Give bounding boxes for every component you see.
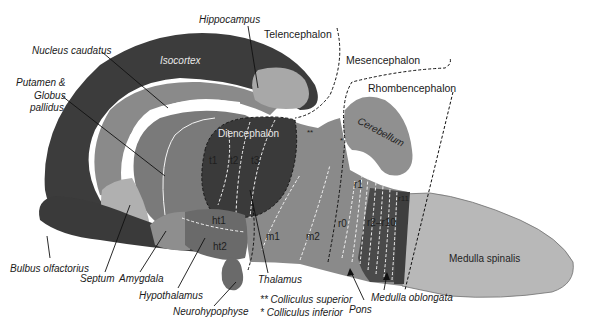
putamen-callout-line3: pallidus [29,102,64,113]
colliculus-superior-mark: ** [307,128,313,137]
putamen-callout-line2: Globus [34,90,66,101]
colliculus-inferior-mark: * [340,136,343,145]
mesencephalon-label: Mesencephalon [346,54,420,66]
ht1-label: ht1 [212,215,226,226]
septum-callout: Septum [80,273,114,284]
m2-label: m2 [306,231,320,242]
r0-label: r0 [338,218,347,229]
medulla-spinalis-region [402,193,573,297]
putamen-callout-line1: Putamen & [16,77,66,88]
r1-label: r1 [354,179,363,190]
ht2-label: ht2 [213,241,227,252]
amygdala-callout: Amygdala [118,273,164,284]
hippocampus-callout: Hippocampus [199,14,260,25]
r2-r10-label: r2–r10 [367,217,396,228]
neurohypophyse-callout: Neurohypophyse [173,306,249,317]
nucleus-caudatus-callout: Nucleus caudatus [32,45,112,56]
bulbus-olfactorius-callout: Bulbus olfactorius [10,263,89,274]
t2-label: t2 [230,155,239,166]
thalamus-callout: Thalamus [258,274,302,285]
medulla-spinalis-label: Medulla spinalis [449,253,520,264]
telencephalon-label: Telencephalon [264,28,332,40]
isocortex-label: Isocortex [160,55,202,66]
t1-label: t1 [209,155,218,166]
medulla-oblongata-callout: Medulla oblongata [371,292,453,303]
colliculus-superior-legend: ** Colliculus superior [260,294,353,305]
brain-diagram: Isocortex Diencephalon t1 t2 t3 ht1 ht2 … [0,0,589,328]
pons-callout: Pons [349,304,372,315]
r11-label: r11 [398,194,410,203]
m1-label: m1 [266,231,280,242]
rhombencephalon-label: Rhombencephalon [368,82,456,94]
t3-label: t3 [251,155,260,166]
diencephalon-label: Diencephalon [218,128,279,139]
hypothalamus-callout: Hypothalamus [139,290,203,301]
colliculus-inferior-legend: * Colliculus inferior [260,307,343,318]
